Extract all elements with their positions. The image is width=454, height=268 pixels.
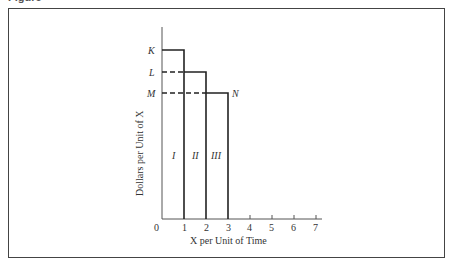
region-iii: III	[210, 150, 222, 161]
label-k: K	[147, 45, 156, 56]
label-n: N	[231, 88, 240, 99]
x-ticks	[250, 215, 316, 219]
bar-1	[162, 50, 184, 219]
x-axis-title: X per Unit of Time	[190, 235, 267, 246]
y-axis-title: Dollars per Unit of X	[134, 110, 145, 196]
svg-text:3: 3	[226, 222, 231, 233]
svg-text:7: 7	[313, 222, 318, 233]
label-m: M	[146, 88, 156, 99]
region-i: I	[171, 150, 176, 161]
svg-text:2: 2	[204, 222, 209, 233]
region-ii: II	[191, 150, 199, 161]
step-chart: K L M N I II III 0 1 2 3 4 5 6 7 X per U…	[0, 0, 454, 268]
bars	[162, 50, 228, 219]
svg-text:1: 1	[182, 222, 187, 233]
svg-text:6: 6	[291, 222, 296, 233]
label-l: L	[148, 67, 155, 78]
svg-text:5: 5	[269, 222, 274, 233]
svg-text:4: 4	[247, 222, 252, 233]
x-tick-labels: 0 1 2 3 4 5 6 7	[154, 222, 318, 233]
bar-2	[184, 72, 206, 219]
svg-text:0: 0	[154, 222, 159, 233]
